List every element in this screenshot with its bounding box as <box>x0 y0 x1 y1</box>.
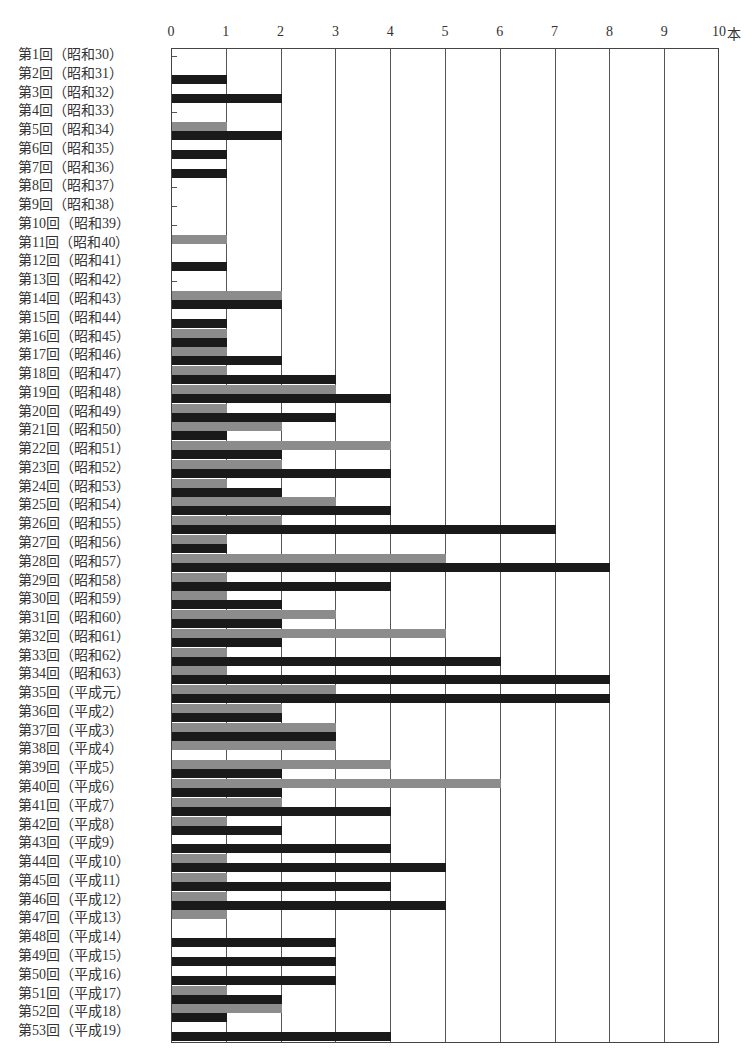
bar-black <box>172 619 282 628</box>
bar-black <box>172 976 336 985</box>
bar-black <box>172 938 336 947</box>
bar-gray <box>172 685 336 694</box>
x-tick-label: 7 <box>551 24 558 40</box>
category-label: 第27回（昭和56） <box>18 535 168 551</box>
bar-black <box>172 488 282 497</box>
zero-marker <box>172 225 177 226</box>
x-tick-label: 0 <box>168 24 175 40</box>
bar-black <box>172 826 282 835</box>
category-label: 第31回（昭和60） <box>18 610 168 626</box>
bar-gray <box>172 610 336 619</box>
bar-gray <box>172 779 501 788</box>
bar-gray <box>172 629 446 638</box>
bar-gray <box>172 704 282 713</box>
category-label: 第20回（昭和49） <box>18 404 168 420</box>
plot-area <box>171 48 719 1043</box>
category-label: 第42回（平成8） <box>18 817 168 833</box>
bar-black <box>172 901 446 910</box>
bar-black <box>172 431 227 440</box>
bar-gray <box>172 235 227 244</box>
bar-black <box>172 882 391 891</box>
bar-gray <box>172 854 227 863</box>
category-label: 第49回（平成15） <box>18 948 168 964</box>
bar-black <box>172 169 227 178</box>
category-label: 第43回（平成9） <box>18 835 168 851</box>
category-label: 第24回（昭和53） <box>18 479 168 495</box>
category-label: 第14回（昭和43） <box>18 291 168 307</box>
bar-black <box>172 788 282 797</box>
gridline <box>281 49 282 1042</box>
bar-gray <box>172 573 227 582</box>
category-label: 第36回（平成2） <box>18 704 168 720</box>
bar-black <box>172 957 336 966</box>
category-label: 第38回（平成4） <box>18 741 168 757</box>
category-label: 第15回（昭和44） <box>18 310 168 326</box>
bar-black <box>172 375 336 384</box>
bar-gray <box>172 760 391 769</box>
bar-black <box>172 582 391 591</box>
category-label: 第3回（昭和32） <box>18 85 168 101</box>
bar-gray <box>172 591 227 600</box>
category-label: 第46回（平成12） <box>18 892 168 908</box>
x-axis-unit: 本 <box>727 23 741 43</box>
category-label: 第40回（平成6） <box>18 779 168 795</box>
bar-gray <box>172 460 282 469</box>
category-label: 第51回（平成17） <box>18 986 168 1002</box>
bar-black <box>172 995 282 1004</box>
category-label: 第39回（平成5） <box>18 760 168 776</box>
zero-marker <box>172 187 177 188</box>
bar-gray <box>172 798 282 807</box>
category-label: 第48回（平成14） <box>18 929 168 945</box>
category-label: 第22回（昭和51） <box>18 441 168 457</box>
category-label: 第41回（平成7） <box>18 798 168 814</box>
gridline <box>445 49 446 1042</box>
category-label: 第45回（平成11） <box>18 873 168 889</box>
category-label: 第23回（昭和52） <box>18 460 168 476</box>
bar-black <box>172 300 282 309</box>
gridline <box>335 49 336 1042</box>
x-tick-label: 10 <box>712 24 726 40</box>
bar-black <box>172 262 227 271</box>
bar-black <box>172 563 610 572</box>
bar-gray <box>172 648 227 657</box>
category-label: 第17回（昭和46） <box>18 347 168 363</box>
gridline <box>390 49 391 1042</box>
x-tick-label: 2 <box>277 24 284 40</box>
bar-black <box>172 394 391 403</box>
zero-marker <box>172 281 177 282</box>
category-label: 第1回（昭和30） <box>18 47 168 63</box>
bar-gray <box>172 873 227 882</box>
bar-gray <box>172 497 336 506</box>
bar-gray <box>172 329 227 338</box>
bar-black <box>172 675 610 684</box>
category-label: 第34回（昭和63） <box>18 666 168 682</box>
bar-black <box>172 1032 391 1041</box>
bar-black <box>172 769 282 778</box>
x-tick-label: 6 <box>496 24 503 40</box>
bar-black <box>172 600 282 609</box>
bar-black <box>172 1013 227 1022</box>
category-label: 第12回（昭和41） <box>18 253 168 269</box>
bar-gray <box>172 122 227 131</box>
bar-gray <box>172 479 227 488</box>
category-label: 第16回（昭和45） <box>18 329 168 345</box>
bar-gray <box>172 986 227 995</box>
category-label: 第53回（平成19） <box>18 1023 168 1039</box>
bar-black <box>172 544 227 553</box>
zero-marker <box>172 112 177 113</box>
bar-gray <box>172 741 336 750</box>
bar-black <box>172 638 282 647</box>
category-label: 第6回（昭和35） <box>18 141 168 157</box>
bar-black <box>172 807 391 816</box>
category-label: 第50回（平成16） <box>18 967 168 983</box>
gridline <box>609 49 610 1042</box>
bar-gray <box>172 535 227 544</box>
x-tick-label: 5 <box>442 24 449 40</box>
zero-marker <box>172 56 177 57</box>
bar-black <box>172 506 391 515</box>
gridline <box>664 49 665 1042</box>
category-label: 第10回（昭和39） <box>18 216 168 232</box>
category-label: 第33回（昭和62） <box>18 648 168 664</box>
category-label: 第21回（昭和50） <box>18 422 168 438</box>
bar-black <box>172 469 391 478</box>
